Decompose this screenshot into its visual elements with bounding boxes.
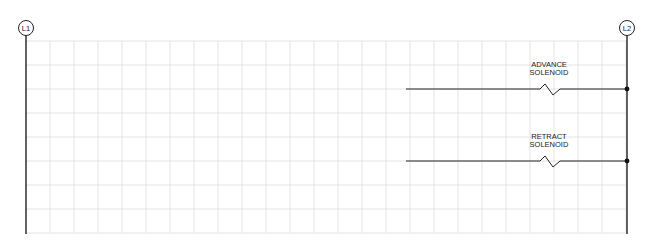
retract-label-line2: SOLENOID <box>530 140 569 149</box>
solenoid-coil-icon <box>406 156 627 167</box>
rail-l2: L2 <box>620 21 635 235</box>
rail-l1-label: L1 <box>22 24 30 33</box>
junction-dot <box>625 87 630 92</box>
junction-dot <box>625 159 630 164</box>
ladder-diagram: L1 L2 ADVANCE SOLENOID RETRACT SOLENOID <box>0 0 656 247</box>
rail-l1: L1 <box>19 21 34 235</box>
solenoid-coil-icon <box>406 84 627 95</box>
advance-label-line2: SOLENOID <box>530 68 569 77</box>
rail-l2-label: L2 <box>623 24 631 33</box>
